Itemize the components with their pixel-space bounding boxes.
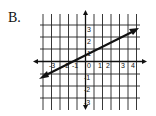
x-tick: 0	[87, 62, 91, 69]
x-tick: 1	[98, 62, 102, 69]
y-tick: -1	[84, 74, 90, 81]
y-tick: -2	[84, 86, 90, 93]
x-tick: -3	[49, 62, 55, 69]
plotted-line	[39, 28, 139, 79]
x-tick: 2	[106, 62, 110, 69]
line-arrow-upper-right-icon	[129, 28, 139, 35]
y-tick: 2	[87, 38, 91, 45]
y-tick: 3	[87, 26, 91, 33]
coordinate-graph: -3 -2 -1 0 1 2 3 4 3 2 1 -1 -2 -3	[0, 0, 156, 116]
x-axis-right-arrow-icon	[142, 59, 147, 64]
x-tick: -1	[72, 62, 78, 69]
y-axis-up-arrow-icon	[83, 10, 88, 15]
y-tick: -3	[84, 99, 90, 106]
line-arrow-lower-left-icon	[39, 71, 49, 79]
x-tick: 4	[131, 62, 135, 69]
x-axis-left-arrow-icon	[33, 59, 38, 64]
x-tick: 3	[121, 62, 125, 69]
